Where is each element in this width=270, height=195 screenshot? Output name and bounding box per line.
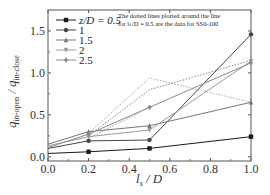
legend-label: 2.5 <box>79 54 93 66</box>
x-tick-label: 0.6 <box>162 162 177 176</box>
marker-circle <box>147 138 151 142</box>
y-axis-label: qin-open / qin-close <box>4 55 21 128</box>
x-tick-label: 0.2 <box>81 162 96 176</box>
y-tick-label: 1.5 <box>30 24 45 38</box>
marker-square <box>147 146 151 150</box>
marker-star <box>147 105 151 110</box>
legend-label: z/D = 0.5 <box>78 14 121 26</box>
annotation-line-1: The dotted lines plotted around the line <box>118 12 220 19</box>
line-chart: 0.00.20.40.60.81.00.00.51.01.5 z/D = 0.5… <box>0 0 270 195</box>
y-tick-label: 1.0 <box>30 66 45 80</box>
marker-square <box>64 18 68 22</box>
x-tick-label: 0.0 <box>41 162 56 176</box>
y-tick-label: 0.0 <box>30 150 45 164</box>
marker-square <box>249 134 253 138</box>
axis-ticks: 0.00.20.40.60.81.00.00.51.01.5 <box>30 10 259 176</box>
annotation-line-2: for lₛ/D = 0.5 are the data for SS0-100 <box>118 20 218 27</box>
marker-circle <box>249 32 253 36</box>
marker-square <box>86 150 90 154</box>
x-tick-label: 1.0 <box>244 162 259 176</box>
legend: z/D = 0.511.522.5 <box>56 14 121 66</box>
y-axis-label-sep: / <box>4 87 19 97</box>
marker-circle <box>64 28 68 32</box>
y-axis-label-sub2: in-close <box>12 55 21 81</box>
x-tick-label: 0.4 <box>122 162 137 176</box>
dotted-series-line <box>89 78 251 133</box>
y-tick-label: 0.5 <box>30 108 45 122</box>
marker-star <box>64 57 68 62</box>
series-line <box>48 61 251 146</box>
y-axis-label-sub1: in-open <box>12 97 21 121</box>
marker-triangle-up <box>249 100 253 105</box>
x-tick-label: 0.8 <box>203 162 218 176</box>
x-axis-label-rest: / D <box>143 171 163 186</box>
x-axis-label: ls / D <box>136 171 163 188</box>
